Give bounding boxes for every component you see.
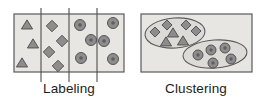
circle-marker-9 <box>76 53 87 64</box>
clustering-caption: Clustering <box>165 81 227 96</box>
labeling-clustering-diagram: Labeling Clustering <box>0 0 265 102</box>
circle-marker-8 <box>206 45 216 55</box>
circle-marker-7 <box>193 50 203 60</box>
circle-marker-7 <box>75 20 86 31</box>
circle-marker-10 <box>108 18 119 29</box>
circle-marker-11 <box>99 36 110 47</box>
diagram-container: Labeling Clustering <box>0 0 265 102</box>
labeling-caption: Labeling <box>43 81 95 96</box>
circle-marker-8 <box>86 35 97 46</box>
circle-marker-9 <box>220 43 230 53</box>
circle-marker-11 <box>226 54 236 64</box>
circle-marker-12 <box>108 54 119 65</box>
circle-marker-10 <box>208 58 218 68</box>
